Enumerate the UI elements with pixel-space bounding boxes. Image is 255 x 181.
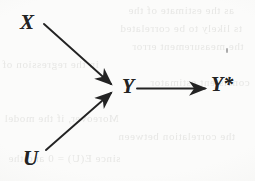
scan-speck-icon [226,48,228,53]
edge-x-to-y [44,24,111,84]
node-label-x: X [20,12,34,33]
edge-x-to-y-line [44,24,111,84]
edge-u-to-y-line [46,93,111,150]
node-label-y: Y [122,76,134,96]
edge-u-to-y [46,93,111,150]
scanned-figure: as the estimate of the ts likely to be c… [0,0,255,181]
node-label-u: U [23,148,38,169]
node-label-y-star: Y* [211,74,233,94]
